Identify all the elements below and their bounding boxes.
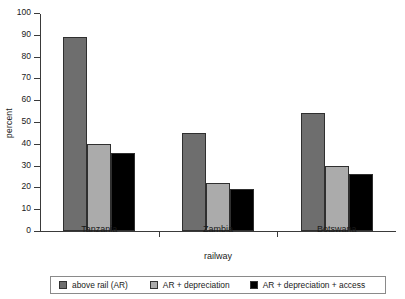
category-label: Tanzania — [40, 224, 159, 234]
y-axis-tick-label: 20 — [22, 181, 31, 191]
y-axis-tick: 60 — [34, 100, 40, 101]
legend-item[interactable]: above rail (AR) — [59, 280, 128, 290]
bar — [301, 113, 325, 231]
legend-label: AR + depreciation + access — [263, 280, 365, 290]
y-axis-tick: 10 — [34, 209, 40, 210]
bar — [182, 133, 206, 231]
y-axis-tick-label: 30 — [22, 160, 31, 170]
y-axis-tick-label: 100 — [17, 7, 31, 17]
plot-area: 0102030405060708090100 — [40, 14, 396, 232]
y-axis-tick-label: 60 — [22, 94, 31, 104]
y-axis-tick: 50 — [34, 122, 40, 123]
bar-group — [182, 14, 254, 231]
y-axis-line — [40, 14, 41, 232]
y-axis-tick: 70 — [34, 78, 40, 79]
y-axis-tick: 90 — [34, 35, 40, 36]
legend-item[interactable]: AR + depreciation + access — [250, 280, 365, 290]
y-axis-tick-label: 10 — [22, 203, 31, 213]
y-axis-tick: 100 — [34, 13, 40, 14]
legend-label: AR + depreciation — [163, 280, 230, 290]
legend-swatch-icon — [250, 281, 258, 289]
y-axis-tick-label: 40 — [22, 138, 31, 148]
y-axis-tick-label: 90 — [22, 29, 31, 39]
legend-swatch-icon — [150, 281, 158, 289]
legend-swatch-icon — [59, 281, 67, 289]
y-axis-title: percent — [4, 93, 14, 153]
legend-item[interactable]: AR + depreciation — [150, 280, 230, 290]
y-axis-tick: 80 — [34, 57, 40, 58]
bar — [349, 174, 373, 231]
y-axis-tick-label: 70 — [22, 72, 31, 82]
bar-group — [301, 14, 373, 231]
bar — [111, 153, 135, 231]
bar-group — [63, 14, 135, 231]
bar — [325, 166, 349, 231]
bar-chart: percent 0102030405060708090100 TanzaniaZ… — [0, 0, 405, 299]
legend: above rail (AR)AR + depreciationAR + dep… — [50, 276, 386, 294]
y-axis-tick-label: 80 — [22, 51, 31, 61]
category-label: Botswana — [277, 224, 396, 234]
category-label: Zambia — [159, 224, 278, 234]
y-axis-tick-label: 50 — [22, 116, 31, 126]
legend-label: above rail (AR) — [72, 280, 128, 290]
bar — [87, 144, 111, 231]
y-axis-tick-label: 0 — [26, 225, 31, 235]
y-axis-tick: 40 — [34, 144, 40, 145]
y-axis-tick: 20 — [34, 187, 40, 188]
y-axis-tick: 30 — [34, 166, 40, 167]
x-axis-title: railway — [40, 251, 396, 261]
bar — [63, 37, 87, 231]
